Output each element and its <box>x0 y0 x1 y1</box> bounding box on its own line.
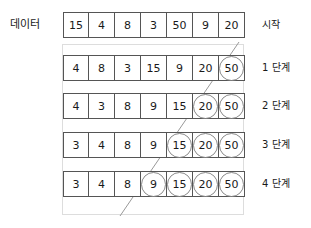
array-cell: 50 <box>167 12 193 38</box>
array-cell-value: 50 <box>225 63 239 74</box>
array-cell-value: 4 <box>73 63 80 74</box>
array-row: 3489152050 <box>63 132 245 158</box>
array-row: 4389152050 <box>63 93 245 119</box>
array-cell: 3 <box>141 12 167 38</box>
array-cell-value: 15 <box>147 63 161 74</box>
array-row: 3489152050 <box>63 171 245 197</box>
array-cell-value: 50 <box>173 20 187 31</box>
data-label: 데이터 <box>10 12 60 38</box>
array-cell-value: 15 <box>173 101 187 112</box>
array-cell: 4 <box>89 12 115 38</box>
array-cell-value: 3 <box>124 63 131 74</box>
array-cell: 4 <box>89 132 115 158</box>
array-cell: 3 <box>63 132 89 158</box>
array-cell-value: 9 <box>150 140 157 151</box>
array-cell-value: 8 <box>124 101 131 112</box>
array-cell-value: 20 <box>199 140 213 151</box>
step-label: 4 단계 <box>262 171 310 197</box>
array-cell-value: 8 <box>124 20 131 31</box>
array-cell-value: 15 <box>69 20 83 31</box>
array-cell-sorted: 50 <box>219 93 245 119</box>
array-cell-value: 50 <box>225 179 239 190</box>
array-cell-value: 50 <box>225 101 239 112</box>
step-label: 3 단계 <box>262 132 310 158</box>
array-cell: 15 <box>63 12 89 38</box>
array-row: 4831592050 <box>63 55 245 81</box>
step-label: 시작 <box>262 12 310 38</box>
array-cell-value: 15 <box>173 179 187 190</box>
array-cell-value: 9 <box>150 101 157 112</box>
array-cell: 9 <box>193 12 219 38</box>
step-label: 2 단계 <box>262 93 310 119</box>
array-cell-value: 9 <box>202 20 209 31</box>
array-cell-value: 3 <box>73 179 80 190</box>
array-cell: 15 <box>141 55 167 81</box>
array-cell-value: 20 <box>199 101 213 112</box>
array-cell-value: 3 <box>73 140 80 151</box>
array-row: 1548350920 <box>63 12 245 38</box>
array-cell-sorted: 20 <box>193 171 219 197</box>
array-cell-value: 20 <box>225 20 239 31</box>
array-cell-value: 20 <box>199 63 213 74</box>
array-cell-value: 4 <box>98 179 105 190</box>
array-cell: 8 <box>115 132 141 158</box>
array-cell-sorted: 15 <box>167 132 193 158</box>
array-cell-value: 8 <box>124 179 131 190</box>
array-cell: 9 <box>141 93 167 119</box>
array-cell: 8 <box>89 55 115 81</box>
array-cell-sorted: 50 <box>219 171 245 197</box>
array-cell-value: 20 <box>199 179 213 190</box>
array-cell: 8 <box>115 93 141 119</box>
diagram-canvas: 데이터1548350920시작48315920501 단계43891520502… <box>0 0 311 228</box>
array-cell-value: 4 <box>98 20 105 31</box>
array-cell-value: 50 <box>225 140 239 151</box>
array-cell: 3 <box>115 55 141 81</box>
array-cell: 3 <box>63 171 89 197</box>
array-cell: 9 <box>141 132 167 158</box>
array-cell: 15 <box>167 93 193 119</box>
array-cell-value: 8 <box>124 140 131 151</box>
array-cell-value: 3 <box>150 20 157 31</box>
array-cell-sorted: 50 <box>219 55 245 81</box>
array-cell: 4 <box>89 171 115 197</box>
array-cell-sorted: 20 <box>193 132 219 158</box>
array-cell: 8 <box>115 171 141 197</box>
array-cell: 3 <box>89 93 115 119</box>
array-cell: 20 <box>193 55 219 81</box>
array-cell: 4 <box>63 55 89 81</box>
array-cell-sorted: 15 <box>167 171 193 197</box>
array-cell-sorted: 20 <box>193 93 219 119</box>
array-cell: 9 <box>167 55 193 81</box>
array-cell-value: 15 <box>173 140 187 151</box>
array-cell-sorted: 50 <box>219 132 245 158</box>
array-cell-value: 9 <box>150 179 157 190</box>
array-cell-value: 4 <box>98 140 105 151</box>
array-cell-value: 4 <box>73 101 80 112</box>
array-cell-value: 3 <box>98 101 105 112</box>
array-cell-value: 8 <box>98 63 105 74</box>
array-cell: 4 <box>63 93 89 119</box>
array-cell-value: 9 <box>176 63 183 74</box>
array-cell: 8 <box>115 12 141 38</box>
array-cell: 20 <box>219 12 245 38</box>
step-label: 1 단계 <box>262 55 310 81</box>
array-cell-sorted: 9 <box>141 171 167 197</box>
